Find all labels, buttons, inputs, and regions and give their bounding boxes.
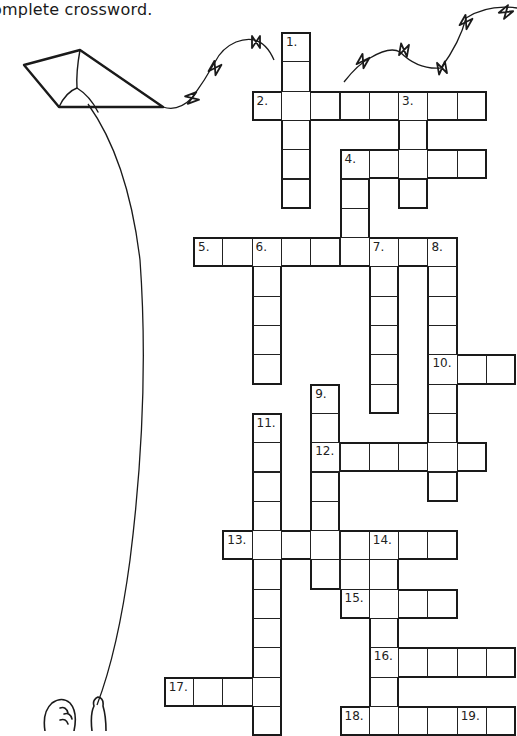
crossword-cell[interactable]: [281, 530, 311, 560]
crossword-cell-3[interactable]: 3.: [398, 91, 428, 121]
crossword-cell-18[interactable]: 18.: [340, 706, 370, 736]
crossword-cell[interactable]: [281, 237, 311, 267]
crossword-cell-19[interactable]: 19.: [457, 706, 487, 736]
crossword-cell[interactable]: [252, 325, 282, 355]
crossword-cell[interactable]: [486, 647, 516, 677]
crossword-cell[interactable]: [398, 706, 428, 736]
crossword-cell[interactable]: [340, 91, 370, 121]
crossword-cell[interactable]: [457, 647, 487, 677]
crossword-cell[interactable]: [398, 530, 428, 560]
crossword-cell[interactable]: [427, 589, 457, 619]
crossword-cell[interactable]: [369, 618, 399, 648]
crossword-cell[interactable]: [369, 354, 399, 384]
crossword-cell[interactable]: [252, 706, 282, 736]
crossword-cell[interactable]: [398, 589, 428, 619]
crossword-cell-15[interactable]: 15.: [340, 589, 370, 619]
crossword-cell-7[interactable]: 7.: [369, 237, 399, 267]
crossword-cell[interactable]: [340, 208, 370, 238]
crossword-cell[interactable]: [222, 677, 252, 707]
crossword-cell[interactable]: [427, 442, 457, 472]
crossword-cell[interactable]: [427, 384, 457, 414]
crossword-cell[interactable]: [252, 501, 282, 531]
crossword-cell[interactable]: [427, 266, 457, 296]
crossword-cell[interactable]: [486, 354, 516, 384]
crossword-cell[interactable]: [427, 530, 457, 560]
crossword-cell[interactable]: [252, 647, 282, 677]
crossword-cell[interactable]: [369, 706, 399, 736]
crossword-cell-5[interactable]: 5.: [193, 237, 223, 267]
crossword-cell[interactable]: [427, 413, 457, 443]
crossword-cell[interactable]: [193, 677, 223, 707]
crossword-cell[interactable]: [310, 237, 340, 267]
crossword-cell[interactable]: [340, 237, 370, 267]
crossword-cell[interactable]: [427, 149, 457, 179]
crossword-cell[interactable]: [486, 706, 516, 736]
crossword-cell[interactable]: [310, 91, 340, 121]
crossword-cell[interactable]: [252, 618, 282, 648]
crossword-cell[interactable]: [369, 442, 399, 472]
crossword-cell-17[interactable]: 17.: [164, 677, 194, 707]
crossword-cell[interactable]: [398, 120, 428, 150]
crossword-cell[interactable]: [252, 589, 282, 619]
crossword-cell[interactable]: [369, 384, 399, 414]
crossword-cell[interactable]: [457, 442, 487, 472]
crossword-cell-10[interactable]: 10.: [427, 354, 457, 384]
crossword-cell[interactable]: [310, 559, 340, 589]
crossword-cell[interactable]: [310, 472, 340, 502]
crossword-cell[interactable]: [369, 677, 399, 707]
crossword-cell[interactable]: [340, 559, 370, 589]
crossword-cell[interactable]: [252, 442, 282, 472]
crossword-cell[interactable]: [369, 91, 399, 121]
crossword-cell[interactable]: [281, 61, 311, 91]
crossword-cell-16[interactable]: 16.: [369, 647, 399, 677]
crossword-cell-13[interactable]: 13.: [222, 530, 252, 560]
crossword-cell-4[interactable]: 4.: [340, 149, 370, 179]
crossword-cell[interactable]: [252, 354, 282, 384]
crossword-cell[interactable]: [457, 149, 487, 179]
crossword-cell[interactable]: [427, 647, 457, 677]
crossword-cell-14[interactable]: 14.: [369, 530, 399, 560]
crossword-cell[interactable]: [427, 472, 457, 502]
crossword-cell[interactable]: [340, 442, 370, 472]
crossword-cell-2[interactable]: 2.: [252, 91, 282, 121]
crossword-cell-11[interactable]: 11.: [252, 413, 282, 443]
crossword-cell[interactable]: [369, 296, 399, 326]
crossword-cell[interactable]: [252, 266, 282, 296]
crossword-cell-1[interactable]: 1.: [281, 32, 311, 62]
crossword-cell[interactable]: [310, 413, 340, 443]
crossword-cell[interactable]: [398, 179, 428, 209]
crossword-cell[interactable]: [252, 559, 282, 589]
crossword-cell[interactable]: [252, 296, 282, 326]
crossword-cell[interactable]: [252, 530, 282, 560]
crossword-cell[interactable]: [281, 120, 311, 150]
crossword-cell[interactable]: [281, 179, 311, 209]
crossword-cell[interactable]: [252, 472, 282, 502]
crossword-cell[interactable]: [427, 325, 457, 355]
crossword-cell-12[interactable]: 12.: [310, 442, 340, 472]
crossword-cell[interactable]: [310, 501, 340, 531]
crossword-cell[interactable]: [398, 442, 428, 472]
crossword-cell[interactable]: [252, 677, 282, 707]
crossword-cell-8[interactable]: 8.: [427, 237, 457, 267]
crossword-cell[interactable]: [427, 706, 457, 736]
crossword-cell[interactable]: [427, 91, 457, 121]
crossword-cell-9[interactable]: 9.: [310, 384, 340, 414]
crossword-cell[interactable]: [222, 237, 252, 267]
crossword-cell[interactable]: [457, 91, 487, 121]
crossword-cell[interactable]: [281, 149, 311, 179]
crossword-cell[interactable]: [369, 325, 399, 355]
crossword-cell-6[interactable]: 6.: [252, 237, 282, 267]
crossword-cell[interactable]: [398, 237, 428, 267]
crossword-cell[interactable]: [369, 266, 399, 296]
crossword-cell[interactable]: [398, 647, 428, 677]
crossword-cell[interactable]: [340, 179, 370, 209]
crossword-cell[interactable]: [340, 530, 370, 560]
crossword-cell[interactable]: [369, 149, 399, 179]
crossword-cell[interactable]: [398, 149, 428, 179]
crossword-cell[interactable]: [369, 559, 399, 589]
crossword-cell[interactable]: [281, 91, 311, 121]
crossword-cell[interactable]: [369, 589, 399, 619]
crossword-cell[interactable]: [427, 296, 457, 326]
crossword-cell[interactable]: [457, 354, 487, 384]
crossword-cell[interactable]: [310, 530, 340, 560]
